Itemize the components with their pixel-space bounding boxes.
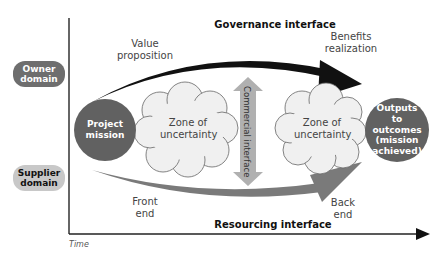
back-end-label: Back end [326,197,360,220]
owner-domain-label: Owner domain [13,61,65,87]
owner-domain-text: Owner domain [19,64,59,85]
governance-interface-title: Governance interface [200,19,350,31]
supplier-domain-label: Supplier domain [13,165,65,191]
project-mission-label: Project mission [82,112,128,148]
resourcing-interface-title: Resourcing interface [198,219,348,231]
resourcing-arrow-body [92,170,322,197]
x-axis-arrowhead-icon [416,228,430,240]
value-proposition-label: Value proposition [115,38,175,61]
zone-of-uncertainty-right-label: Zone of uncertainty [294,117,350,140]
time-axis-label: Time [69,240,89,249]
outputs-outcomes-label: Outputs to outcomes (mission achieved) [370,98,424,162]
supplier-domain-text: Supplier domain [17,168,61,189]
front-end-label: Front end [127,196,163,219]
zone-of-uncertainty-left-label: Zone of uncertainty [160,117,216,140]
commercial-interface-label: Commercial interface [242,86,252,178]
benefits-realization-label: Benefits realization [318,31,384,54]
